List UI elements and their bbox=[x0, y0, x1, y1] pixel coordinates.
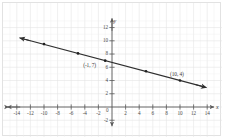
x-tick-label-neg6: -6 bbox=[69, 111, 73, 116]
y-tick-label-neg2: -2 bbox=[104, 118, 108, 123]
graph-figure: x y -14-12-10-8-6-4-202468101214-2246810… bbox=[0, 0, 225, 140]
point-label-right: (10, 4) bbox=[170, 72, 184, 77]
y-tick-label-2: 2 bbox=[106, 91, 109, 96]
y-tick-label-4: 4 bbox=[106, 78, 109, 83]
y-tick-label-10: 10 bbox=[103, 38, 108, 43]
x-tick-label-10: 10 bbox=[178, 111, 183, 116]
x-tick-label-12: 12 bbox=[191, 111, 196, 116]
x-tick-label-neg4: -4 bbox=[83, 111, 87, 116]
x-tick-label-neg12: -12 bbox=[27, 111, 34, 116]
x-axis-label: x bbox=[216, 104, 219, 110]
x-tick-label-2: 2 bbox=[124, 111, 127, 116]
x-tick-label-neg8: -8 bbox=[56, 111, 60, 116]
point-label-left: (-1, 7) bbox=[83, 63, 96, 68]
x-tick-label-neg10: -10 bbox=[41, 111, 48, 116]
x-tick-label-6: 6 bbox=[152, 111, 155, 116]
y-tick-label-12: 12 bbox=[103, 25, 108, 30]
x-tick-label-8: 8 bbox=[165, 111, 168, 116]
x-tick-label-14: 14 bbox=[205, 111, 210, 116]
x-tick-label-neg14: -14 bbox=[13, 111, 20, 116]
y-tick-label-6: 6 bbox=[106, 65, 109, 70]
x-tick-label-4: 4 bbox=[138, 111, 141, 116]
x-tick-label-neg2: -2 bbox=[96, 111, 100, 116]
y-axis-label: y bbox=[114, 18, 117, 24]
x-tick-label-origin: 0 bbox=[106, 108, 109, 113]
y-tick-label-8: 8 bbox=[106, 51, 109, 56]
labels-layer: x y -14-12-10-8-6-4-202468101214-2246810… bbox=[0, 0, 225, 140]
